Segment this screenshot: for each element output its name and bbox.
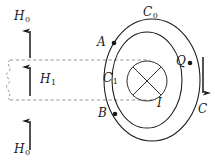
label-h0-top-subscript: 0 xyxy=(25,15,30,24)
label-h1-base: H xyxy=(40,72,50,86)
label-point-q: Q xyxy=(176,55,186,67)
label-c0: C0 xyxy=(143,6,157,18)
label-h0-bottom-subscript: 0 xyxy=(25,148,30,157)
inner-contour-c1 xyxy=(112,32,182,128)
label-point-b: B xyxy=(98,107,107,119)
label-c1-base: C xyxy=(103,71,112,85)
point-marker-a xyxy=(112,41,117,46)
physics-figure: H0 H1 H0 C0 C1 A B Q I C xyxy=(0,0,215,164)
label-c1-subscript: 1 xyxy=(113,77,118,86)
outer-contour-c0 xyxy=(104,19,200,141)
label-h0-top: H0 xyxy=(14,10,30,22)
point-marker-b xyxy=(113,112,118,117)
label-contour-c: C xyxy=(198,103,207,115)
label-c0-base: C xyxy=(143,5,152,19)
label-h0-bottom: H0 xyxy=(14,143,30,155)
label-h0-top-base: H xyxy=(14,9,24,23)
label-h1: H1 xyxy=(40,73,56,85)
label-h1-subscript: 1 xyxy=(51,78,56,87)
point-marker-q xyxy=(188,61,193,66)
current-cross-icon xyxy=(133,67,161,95)
label-c0-subscript: 0 xyxy=(153,11,158,20)
label-h0-bottom-base: H xyxy=(14,142,24,156)
label-current-i: I xyxy=(157,97,162,109)
label-point-a: A xyxy=(97,36,106,48)
dashed-box-wavy-left-edge xyxy=(7,60,10,100)
label-c1: C1 xyxy=(103,72,117,84)
